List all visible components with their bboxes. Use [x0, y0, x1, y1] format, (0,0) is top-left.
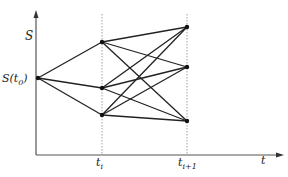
origin-label: S(t0)	[2, 72, 28, 87]
x-axis-arrow-icon	[276, 153, 284, 158]
node-ti-down	[100, 113, 104, 117]
node-ti1-mid	[185, 65, 189, 69]
node-ti-mid	[100, 86, 104, 90]
node-ti1-down	[185, 119, 189, 123]
tree-edges	[38, 27, 187, 121]
tick-ti1-label: ti+1	[178, 156, 197, 171]
y-axis-arrow-icon	[34, 10, 39, 18]
node-ti-up	[100, 40, 104, 44]
tick-ti-label: ti	[96, 156, 103, 171]
y-axis-label: S	[25, 29, 33, 43]
node-origin	[36, 76, 40, 80]
x-axis-label: t	[261, 154, 266, 167]
trinomial-tree-diagram: S S(t0) ti ti+1 t	[0, 0, 288, 177]
node-ti1-up	[185, 25, 189, 29]
axes	[36, 16, 278, 155]
